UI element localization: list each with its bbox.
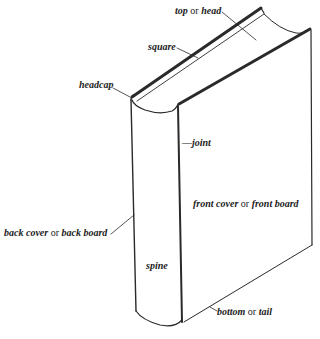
label-spine: spine [146,261,168,271]
spine-bottom-curve [136,311,182,326]
front-board-fore-edge [311,30,312,245]
label-bottom-or-tail: bottom or tail [217,307,272,317]
front-board-top-edge [179,29,310,104]
head-curve [264,14,309,33]
leader-headcap [113,88,130,97]
label-top-or-head: top or head [175,6,221,16]
label-square: square [148,42,176,52]
label-back-cover: back cover or back board [4,228,107,238]
label-headcap: headcap [79,80,113,90]
spine-left-edge [131,100,136,311]
label-front-cover: front cover or front board [193,199,299,209]
spine-top-curve [132,100,178,113]
leader-bottom [210,307,217,311]
label-joint: —joint [182,138,211,148]
leader-back [111,215,134,234]
square-line [137,14,264,101]
back-board-top-edge [132,8,261,97]
